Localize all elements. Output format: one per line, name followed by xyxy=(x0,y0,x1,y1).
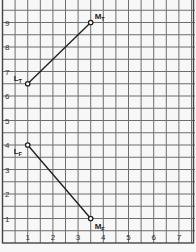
y-tick-label: 6 xyxy=(5,92,10,101)
data-point xyxy=(89,216,93,220)
x-tick-label: 4 xyxy=(101,233,106,242)
chart: 1234567 123456789 LTMTLFMF xyxy=(0,0,195,252)
point-label: LF xyxy=(14,147,23,157)
x-tick-label: 1 xyxy=(25,233,30,242)
y-tick-label: 5 xyxy=(5,117,10,126)
y-tick-label: 8 xyxy=(5,43,10,52)
x-tick-labels: 1234567 xyxy=(25,233,181,242)
y-tick-label: 4 xyxy=(5,141,10,150)
grid xyxy=(3,0,196,243)
point-label: LT xyxy=(14,74,23,84)
data-point xyxy=(26,143,30,147)
x-tick-label: 2 xyxy=(51,233,56,242)
x-tick-label: 7 xyxy=(177,233,182,242)
y-tick-label: 2 xyxy=(5,190,10,199)
y-tick-labels: 123456789 xyxy=(5,19,10,224)
data-point xyxy=(89,20,93,24)
x-tick-label: 6 xyxy=(151,233,156,242)
data-point xyxy=(26,82,30,86)
y-tick-label: 9 xyxy=(5,19,10,28)
x-tick-label: 5 xyxy=(126,233,131,242)
series-line xyxy=(28,23,91,84)
y-tick-label: 1 xyxy=(5,215,10,224)
x-tick-label: 3 xyxy=(76,233,81,242)
y-tick-label: 7 xyxy=(5,68,10,77)
y-tick-label: 3 xyxy=(5,166,10,175)
